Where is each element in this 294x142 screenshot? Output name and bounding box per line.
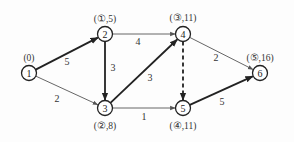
edge-weight-label: 2 [214, 52, 219, 63]
edge-weight-label: 4 [136, 36, 141, 47]
node-label: (⑤,16) [246, 53, 273, 64]
edge-4-6 [190, 37, 253, 69]
edge-weight-label: 5 [65, 56, 70, 67]
node-1: 1(0) [22, 53, 37, 81]
network-diagram: 52343125 1(0)2(①,5)3(②,8)4(③,11)5(④,11)6… [0, 0, 294, 142]
edge-weight-label: 3 [148, 72, 153, 83]
node-id: 2 [103, 29, 108, 40]
node-5: 5(④,11) [170, 101, 197, 133]
node-id: 1 [27, 68, 32, 79]
node-label: (③,11) [170, 13, 197, 24]
node-label: (①,5) [94, 14, 116, 25]
node-label: (④,11) [170, 121, 197, 132]
node-id: 3 [103, 103, 108, 114]
edge-3-4 [110, 40, 177, 103]
node-label: (0) [23, 53, 34, 64]
diagram-svg: 52343125 1(0)2(①,5)3(②,8)4(③,11)5(④,11)6… [0, 0, 294, 142]
node-id: 5 [181, 103, 186, 114]
node-3: 3(②,8) [94, 101, 116, 133]
edge-weight-label: 3 [111, 62, 116, 73]
edge-labels-group: 52343125 [55, 36, 225, 122]
edge-weight-label: 5 [220, 96, 225, 107]
edge-1-3 [36, 76, 98, 105]
node-4: 4(③,11) [170, 13, 197, 42]
node-id: 6 [258, 68, 263, 79]
node-id: 4 [181, 29, 186, 40]
node-label: (②,8) [94, 121, 116, 132]
edge-weight-label: 2 [55, 93, 60, 104]
edge-weight-label: 1 [142, 111, 147, 122]
